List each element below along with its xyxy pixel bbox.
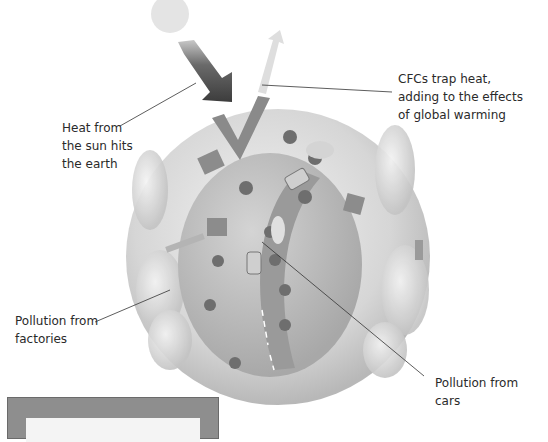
caption-box (7, 397, 219, 439)
reflected-heat-arrow (258, 30, 284, 94)
label-heat-from-sun: Heat from the sun hits the earth (62, 119, 133, 173)
label-cfcs-trap-heat: CFCs trap heat, adding to the effects of… (398, 70, 523, 124)
label-pollution-factories: Pollution from factories (15, 312, 98, 348)
sun-icon (151, 0, 189, 33)
label-pollution-cars: Pollution from cars (435, 374, 518, 410)
incoming-heat-arrow (178, 40, 232, 102)
caption-box-inner (26, 418, 200, 442)
